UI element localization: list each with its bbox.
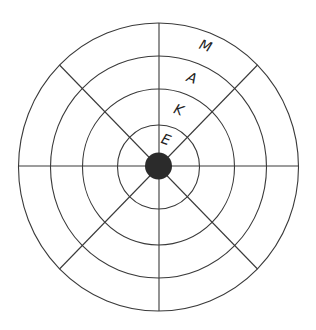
label-m: M xyxy=(197,36,214,55)
label-e: E xyxy=(159,130,173,148)
label-k: K xyxy=(172,100,188,119)
label-a: A xyxy=(184,68,199,87)
labels: M A K E xyxy=(159,36,214,148)
center-dot xyxy=(145,153,172,180)
concentric-target-diagram: M A K E xyxy=(0,0,316,330)
